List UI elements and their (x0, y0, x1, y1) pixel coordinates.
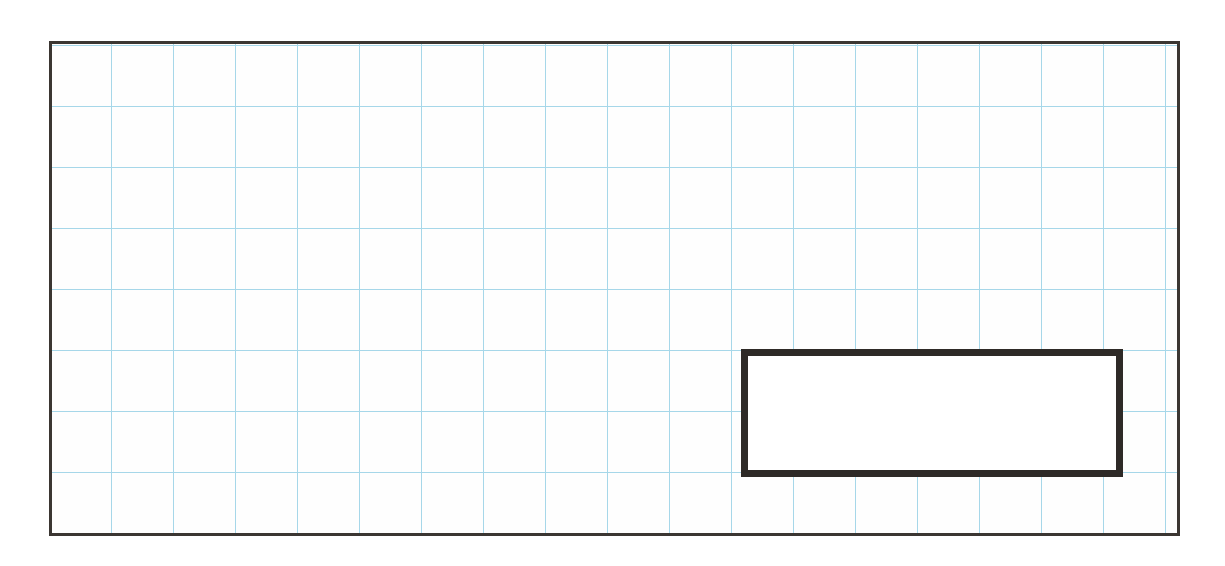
blank-inner-rectangle (741, 349, 1123, 477)
scanned-page (0, 0, 1225, 566)
grid-paper-rectangle (49, 41, 1180, 536)
